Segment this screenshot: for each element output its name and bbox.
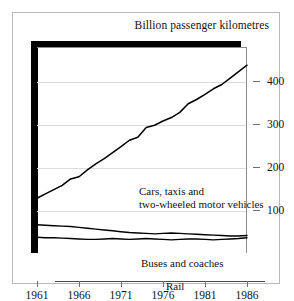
- x-tickmark-1976: [163, 281, 164, 287]
- series-label-cars-line2: two-wheeled motor vehicles: [139, 198, 264, 211]
- plot-area: [37, 47, 247, 253]
- y-tick-label-300: 300: [267, 118, 284, 130]
- x-tickmark-1986: [247, 281, 248, 287]
- x-tick-label-1971: 1971: [110, 289, 133, 301]
- x-tickmark-1961: [37, 281, 38, 287]
- x-tick-label-1961: 1961: [26, 289, 49, 301]
- series-lines: [37, 48, 247, 254]
- x-tickmark-1966: [79, 281, 80, 287]
- line-cars: [37, 65, 247, 198]
- series-label-buses-line1: Buses and coaches: [141, 257, 223, 270]
- series-label-cars-line1: Cars, taxis and: [139, 185, 264, 198]
- x-axis-line: [55, 281, 265, 282]
- y-tickmark-400: [253, 81, 260, 82]
- series-label-cars: Cars, taxis and two-wheeled motor vehicl…: [139, 185, 264, 210]
- chart-figure: Billion passenger kilometres 10020030040…: [12, 12, 280, 284]
- y-tick-label-100: 100: [267, 204, 284, 216]
- y-tick-label-400: 400: [267, 75, 284, 87]
- chart-title: Billion passenger kilometres: [135, 19, 269, 31]
- x-tick-label-1986: 1986: [236, 289, 259, 301]
- y-tickmark-100: [253, 210, 260, 211]
- series-label-buses: Buses and coaches: [141, 257, 223, 270]
- x-tickmark-1971: [121, 281, 122, 287]
- y-tick-label-200: 200: [267, 161, 284, 173]
- line-rail: [37, 237, 247, 240]
- series-label-rail-line1: Rail: [166, 280, 184, 293]
- line-buses: [37, 225, 247, 236]
- x-tick-label-1981: 1981: [194, 289, 217, 301]
- x-tickmark-1981: [205, 281, 206, 287]
- y-tickmark-300: [253, 124, 260, 125]
- series-label-rail: Rail: [166, 280, 184, 293]
- plot-shell: 100200300400 196119661971197619811986 Ca…: [31, 41, 255, 253]
- y-tickmark-200: [253, 167, 260, 168]
- x-tick-label-1966: 1966: [68, 289, 91, 301]
